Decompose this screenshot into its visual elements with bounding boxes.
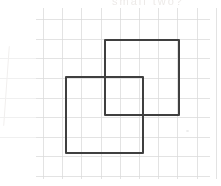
grid-vertical-line [197, 8, 198, 179]
grid-horizontal-line [36, 176, 210, 177]
graph-paper-canvas: small two? [0, 0, 221, 186]
lower-left-square [65, 76, 144, 154]
grid-faint-left-line [0, 117, 36, 118]
grid-faint-left-line [0, 137, 36, 138]
grid-vertical-line [62, 8, 63, 179]
grid-faint-left-line [0, 58, 36, 59]
grid-horizontal-line [36, 19, 210, 20]
faint-annotation-text: small two? [112, 0, 202, 7]
grid-faint-left-line [0, 78, 36, 79]
smudge-artifact [186, 130, 189, 132]
grid-vertical-line [216, 8, 217, 179]
grid-vertical-line [43, 8, 44, 179]
grid-horizontal-line [36, 156, 210, 157]
